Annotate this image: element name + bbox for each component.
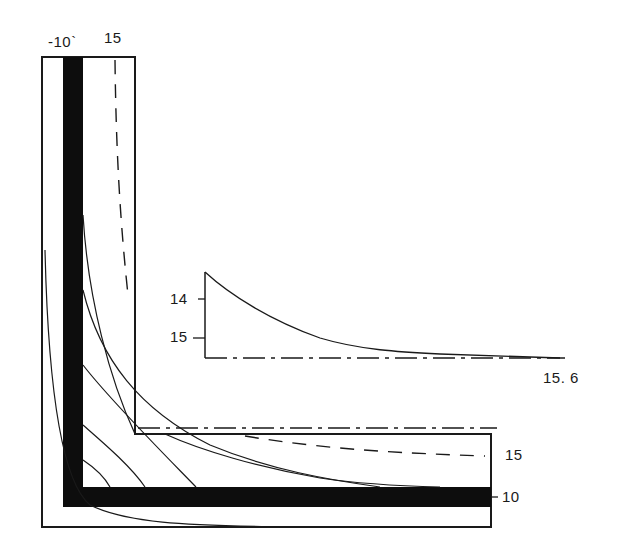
isotherm-line-6 bbox=[165, 434, 440, 487]
inset-profile-curve bbox=[205, 272, 560, 358]
label-inset-tick-15: 15 bbox=[170, 328, 188, 345]
corner-diagram bbox=[0, 0, 623, 557]
label-right-lower: 10 bbox=[502, 488, 520, 505]
inset-profile-chart bbox=[193, 272, 565, 358]
label-top-left: -10` bbox=[48, 33, 77, 50]
isotherm-line-1 bbox=[83, 215, 135, 434]
outer-outline bbox=[42, 57, 491, 527]
label-top-right: 15 bbox=[104, 29, 122, 46]
isotherm-line-3 bbox=[83, 365, 196, 487]
label-inset-end-value: 15. 6 bbox=[543, 369, 579, 386]
label-right-upper: 15 bbox=[505, 446, 523, 463]
dashed-isotherm-vertical bbox=[115, 60, 128, 295]
isotherm-line-5 bbox=[83, 460, 110, 487]
dashed-isotherm-horizontal bbox=[245, 436, 485, 456]
label-inset-tick-14: 14 bbox=[170, 290, 188, 307]
